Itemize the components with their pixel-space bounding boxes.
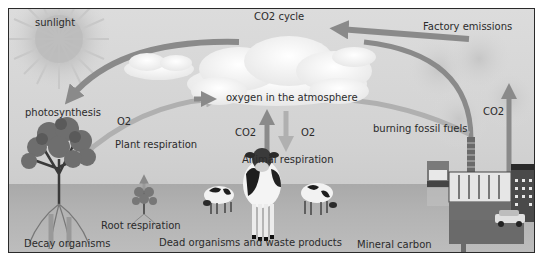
label-dead-organisms: Dead organisms and waste products (159, 238, 342, 248)
factory-icon (449, 164, 534, 252)
label-o2-left: O2 (117, 117, 131, 127)
label-o2-down: O2 (301, 128, 315, 138)
label-animal-respiration: Animal respiration (242, 155, 334, 165)
carbon-cycle-diagram: sunlight CO2 cycle Factory emissions pho… (8, 8, 535, 253)
chimney-icon (467, 137, 475, 173)
label-burning-fossil-fuels: burning fossil fuels (373, 124, 467, 134)
label-oxygen-atmosphere: oxygen in the atmosphere (226, 93, 358, 103)
label-mineral-carbon: Mineral carbon (357, 240, 432, 250)
truck-icon (427, 161, 449, 206)
label-sunlight: sunlight (35, 18, 75, 28)
label-plant-respiration: Plant respiration (115, 140, 197, 150)
label-photosynthesis: photosynthesis (25, 108, 101, 118)
cow-icon-left (203, 186, 234, 214)
label-co2-up: CO2 (235, 128, 256, 138)
label-decay-organisms: Decay organisms (24, 239, 110, 249)
label-co2-cycle: CO2 cycle (254, 12, 304, 22)
cow-icon-right (301, 183, 337, 215)
large-tree-icon (21, 117, 96, 249)
label-co2-right: CO2 (483, 107, 504, 117)
label-root-respiration: Root respiration (101, 221, 181, 231)
label-factory-emissions: Factory emissions (423, 22, 512, 32)
